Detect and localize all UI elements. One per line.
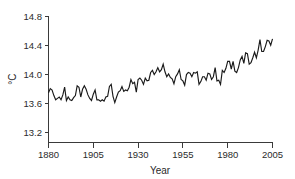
x-tick-label-1980: 1980 [217, 149, 238, 160]
x-axis-tick-labels: 1880 1905 1930 1955 1980 2005 [38, 149, 283, 160]
y-tick-label-14-0: 14.0 [24, 69, 43, 80]
y-axis-ticks [45, 17, 49, 133]
x-tick-label-2005: 2005 [262, 149, 283, 160]
y-axis-title: °C [7, 73, 18, 84]
x-axis-title: Year [150, 165, 171, 176]
y-tick-label-14-4: 14.4 [24, 40, 43, 51]
x-tick-label-1905: 1905 [83, 149, 104, 160]
y-tick-label-14-8: 14.8 [24, 11, 43, 22]
x-axis-ticks [49, 143, 273, 148]
temperature-chart-figure: 14.8 14.4 14.0 13.6 13.2 1880 1905 1930 … [0, 0, 295, 179]
chart-canvas: 14.8 14.4 14.0 13.6 13.2 1880 1905 1930 … [0, 0, 295, 179]
x-tick-label-1955: 1955 [172, 149, 193, 160]
temperature-series-line [49, 39, 273, 103]
y-tick-label-13-2: 13.2 [24, 127, 43, 138]
y-axis-tick-labels: 14.8 14.4 14.0 13.6 13.2 [24, 11, 43, 138]
x-tick-label-1930: 1930 [128, 149, 149, 160]
x-tick-label-1880: 1880 [38, 149, 59, 160]
y-tick-label-13-6: 13.6 [24, 98, 43, 109]
